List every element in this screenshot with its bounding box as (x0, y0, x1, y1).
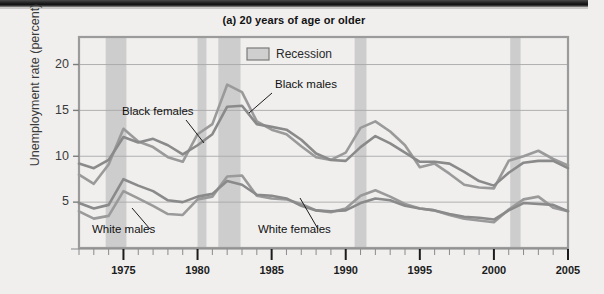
x-tick-label: 2005 (556, 264, 580, 276)
y-tick-label: 20 (55, 57, 69, 71)
x-tick-label: 1990 (333, 264, 357, 276)
recession-band (218, 37, 240, 248)
legend-label-recession: Recession (276, 47, 332, 61)
unemployment-line-chart: 5101520 1975198019851990199520002005 Bla… (0, 0, 604, 294)
x-tick-label: 2000 (482, 264, 506, 276)
plot-border (79, 37, 568, 248)
series-annotation: White males (92, 223, 156, 235)
x-axis-ticks: 1975198019851990199520002005 (71, 249, 580, 276)
recession-band (510, 37, 520, 248)
y-tick-label: 5 (62, 194, 69, 208)
x-tick-label: 1980 (185, 264, 209, 276)
series-line (79, 176, 568, 223)
y-axis-ticks: 5101520 (55, 57, 79, 209)
series-annotation: Black females (122, 105, 194, 117)
y-tick-label: 10 (55, 149, 69, 163)
plot-frame (79, 37, 568, 248)
x-tick-label: 1975 (111, 264, 135, 276)
series-annotation: White females (258, 223, 331, 235)
series-annotation: Black males (275, 78, 337, 90)
legend-swatch-recession (247, 48, 269, 60)
series-line (79, 85, 568, 189)
y-tick-label: 15 (55, 103, 69, 117)
x-tick-label: 1995 (408, 264, 432, 276)
legend: Recession (247, 47, 332, 61)
x-tick-label: 1985 (259, 264, 283, 276)
chart-container: 5101520 1975198019851990199520002005 Bla… (0, 0, 604, 294)
